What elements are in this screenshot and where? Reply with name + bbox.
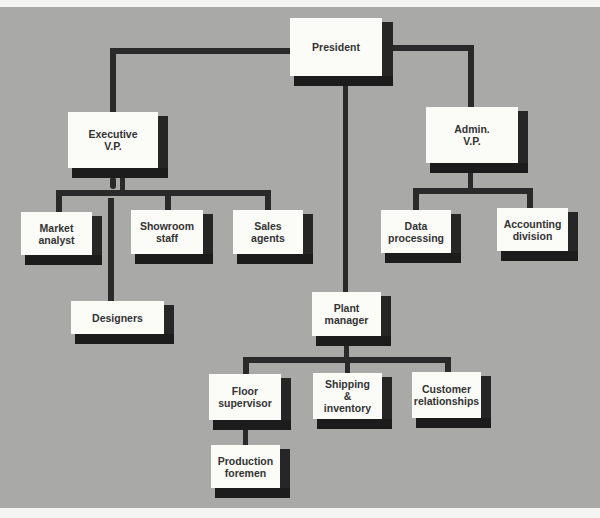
node-president: President <box>290 18 382 76</box>
node-accounting-division: Accounting division <box>497 208 568 251</box>
node-designers: Designers <box>71 301 164 334</box>
node-executive-vp: Executive V.P. <box>68 112 158 168</box>
connector-president-executive-drop <box>110 48 116 113</box>
connector-executive-bus <box>56 190 270 196</box>
node-label: Data processing <box>388 220 444 244</box>
node-label: Admin. V.P. <box>454 123 490 147</box>
node-market-analyst: Market analyst <box>21 212 92 255</box>
node-label: Executive V.P. <box>88 128 137 152</box>
node-shipping-inventory: Shipping & inventory <box>313 373 382 419</box>
connector-to-customer <box>445 357 451 373</box>
node-data-processing: Data processing <box>381 210 451 253</box>
node-label: President <box>312 41 360 53</box>
node-plant-manager: Plant manager <box>312 292 381 336</box>
connector-to-showroom <box>165 190 171 211</box>
connector-president-admin <box>382 45 474 51</box>
node-label: Accounting division <box>504 218 562 242</box>
node-floor-supervisor: Floor supervisor <box>209 374 281 420</box>
connector-to-designers <box>108 198 114 302</box>
connector-to-market <box>56 190 62 213</box>
node-label: Market analyst <box>38 222 74 246</box>
node-label: Plant manager <box>325 302 369 326</box>
node-label: Production foremen <box>218 455 273 479</box>
connector-to-floor <box>243 357 249 375</box>
node-label: Shipping & inventory <box>324 378 371 414</box>
node-admin-vp: Admin. V.P. <box>426 107 518 163</box>
connector-admin-bus <box>413 188 533 194</box>
connector-president-admin-drop <box>468 45 474 108</box>
connector-president-executive <box>110 48 290 54</box>
node-label: Designers <box>92 312 143 324</box>
connector-to-shipping <box>345 357 350 374</box>
node-label: Customer relationships <box>414 383 479 407</box>
connector-president-plant <box>343 85 348 293</box>
connector-to-accounting <box>527 188 533 209</box>
node-sales-agents: Sales agents <box>233 210 303 254</box>
node-customer-relationships: Customer relationships <box>412 372 481 418</box>
node-label: Floor supervisor <box>218 385 272 409</box>
node-label: Sales agents <box>251 220 285 244</box>
node-label: Showroom staff <box>140 220 194 244</box>
connector-designers-hop <box>110 177 116 189</box>
node-showroom-staff: Showroom staff <box>131 210 203 254</box>
connector-to-sales <box>265 190 271 211</box>
org-chart-canvas: President Executive V.P. Admin. V.P. Mar… <box>0 7 600 508</box>
node-production-foremen: Production foremen <box>211 445 280 488</box>
connector-to-data-processing <box>413 188 419 211</box>
